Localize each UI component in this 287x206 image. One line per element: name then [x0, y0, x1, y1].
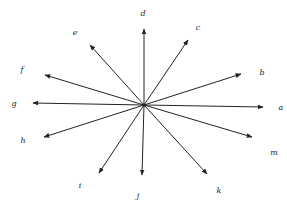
- vector-arrow-m: [144, 105, 252, 137]
- vector-diagram: abcdefghijkm: [0, 0, 287, 206]
- vector-label-g: g: [11, 99, 16, 108]
- vector-arrow-g: [33, 103, 144, 105]
- vector-label-b: b: [259, 68, 264, 77]
- vector-arrow-b: [144, 74, 241, 105]
- vector-label-i: i: [79, 181, 82, 190]
- vector-arrow-j: [142, 105, 144, 175]
- vector-label-d: d: [140, 9, 145, 18]
- vector-arrow-c: [144, 40, 188, 105]
- vector-label-f: f: [20, 65, 26, 74]
- vector-arrow-h: [44, 105, 144, 137]
- labels-group: abcdefghijkm: [11, 9, 283, 200]
- vector-arrow-a: [144, 105, 263, 107]
- origin-point: [142, 103, 145, 106]
- vector-label-e: e: [73, 28, 78, 37]
- vectors-group: [33, 29, 263, 175]
- vector-label-j: j: [135, 191, 140, 200]
- vector-arrow-k: [144, 105, 207, 174]
- vector-label-m: m: [270, 148, 278, 157]
- vector-label-c: c: [196, 23, 201, 32]
- vector-label-a: a: [279, 103, 284, 112]
- vector-arrow-i: [99, 105, 144, 173]
- vector-label-k: k: [217, 186, 222, 195]
- vector-arrow-e: [90, 45, 144, 105]
- vector-label-h: h: [20, 136, 25, 145]
- vector-arrow-f: [45, 75, 144, 105]
